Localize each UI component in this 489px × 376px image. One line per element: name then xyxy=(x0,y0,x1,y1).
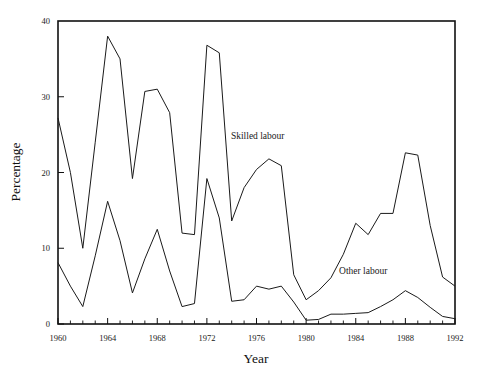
y-tick-label: 40 xyxy=(42,16,51,26)
x-tick-label: 1968 xyxy=(149,333,166,343)
x-tick-label: 1984 xyxy=(347,333,365,343)
series-annotation-0: Skilled labour xyxy=(231,131,285,141)
plot-frame xyxy=(58,21,455,324)
x-tick-label: 1960 xyxy=(50,333,67,343)
y-axis-tick-labels: 010203040 xyxy=(42,16,51,329)
x-tick-label: 1972 xyxy=(198,333,215,343)
y-tick-label: 0 xyxy=(46,319,50,329)
series-annotation-group: Skilled labourOther labour xyxy=(231,131,388,276)
x-axis-title: Year xyxy=(244,351,269,366)
series-line-0 xyxy=(58,36,455,300)
y-tick-label: 20 xyxy=(42,168,51,178)
y-axis-title: Percentage xyxy=(8,142,23,201)
x-tick-label: 1992 xyxy=(447,333,464,343)
data-series-group xyxy=(58,36,455,320)
x-tick-label: 1976 xyxy=(248,333,265,343)
series-annotation-1: Other labour xyxy=(339,266,388,276)
x-tick-label: 1988 xyxy=(397,333,414,343)
x-axis-tick-labels: 196019641968197219761980198419881992 xyxy=(50,333,464,343)
y-tick-label: 30 xyxy=(42,92,51,102)
x-axis-ticks xyxy=(58,318,455,324)
x-tick-label: 1964 xyxy=(99,333,117,343)
y-tick-label: 10 xyxy=(42,243,51,253)
chart-canvas: 196019641968197219761980198419881992 010… xyxy=(0,0,489,376)
x-tick-label: 1980 xyxy=(298,333,315,343)
chart-figure: 196019641968197219761980198419881992 010… xyxy=(0,0,489,376)
